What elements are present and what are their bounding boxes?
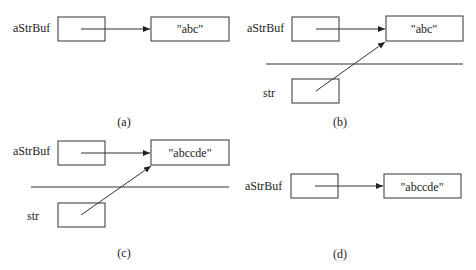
caption: (d) <box>333 247 347 261</box>
str-ref-box <box>292 79 339 103</box>
string-value: "abccde" <box>400 180 443 194</box>
caption: (c) <box>117 246 130 260</box>
string-value: "abc" <box>177 22 204 36</box>
panel-c: aStrBuf "abccde" str (c) <box>13 140 229 260</box>
astrbuf-label: aStrBuf <box>13 144 50 158</box>
panel-d: aStrBuf "abccde" (d) <box>245 174 461 261</box>
panel-a: aStrBuf "abc" (a) <box>13 17 229 129</box>
astrbuf-label: aStrBuf <box>247 21 284 35</box>
caption: (a) <box>117 115 130 129</box>
str-reference-arrow <box>316 42 385 91</box>
string-buffer-diagram: aStrBuf "abc" (a) aStrBuf "abc" str (b) … <box>0 0 476 270</box>
string-value: "abc" <box>411 22 438 36</box>
str-label: str <box>263 86 275 100</box>
string-value: "abccde" <box>168 146 211 160</box>
str-reference-arrow <box>81 166 151 215</box>
caption: (b) <box>333 115 347 129</box>
str-label: str <box>27 209 39 223</box>
astrbuf-label: aStrBuf <box>13 21 50 35</box>
panel-b: aStrBuf "abc" str (b) <box>247 16 463 129</box>
astrbuf-label: aStrBuf <box>245 179 282 193</box>
